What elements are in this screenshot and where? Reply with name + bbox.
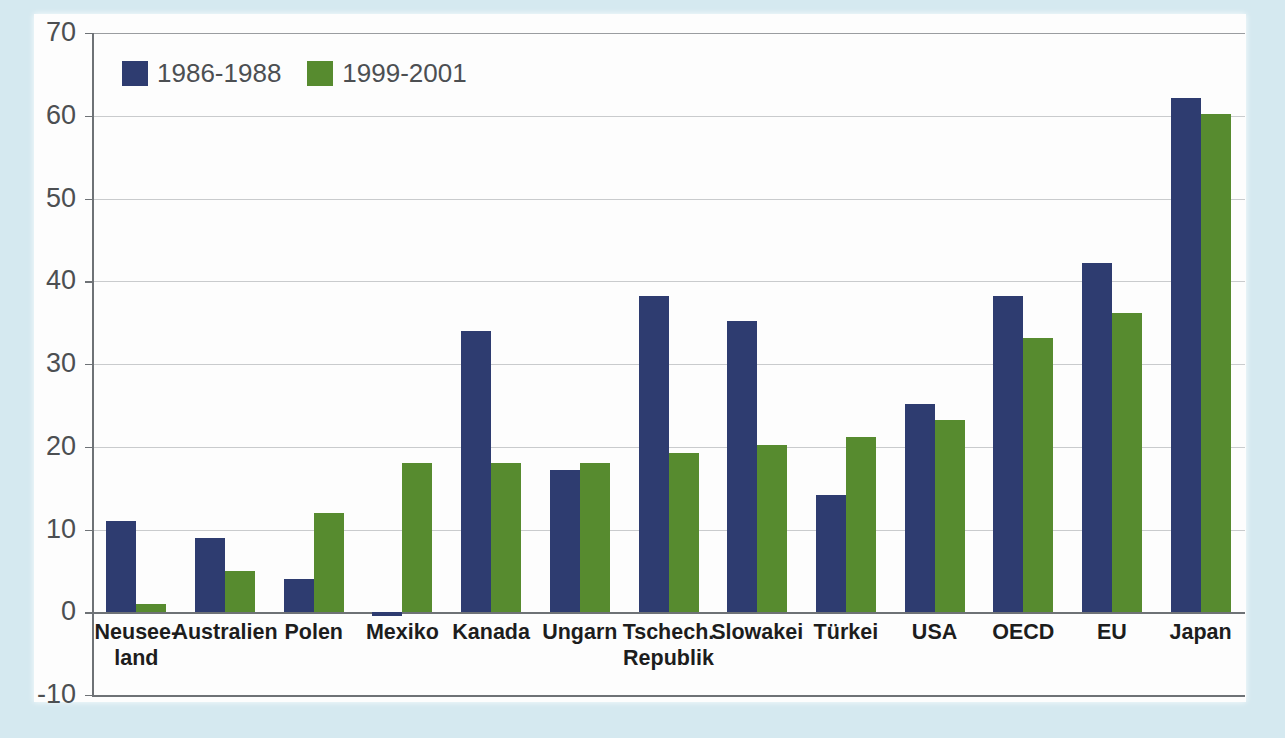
y-tick-mark <box>85 116 92 117</box>
y-tick-label: 20 <box>6 433 76 460</box>
bar <box>727 321 757 612</box>
y-tick-mark <box>85 364 92 365</box>
legend-item-1986-1988: 1986-1988 <box>122 60 281 86</box>
legend-swatch-icon <box>122 61 148 86</box>
bar <box>225 571 255 612</box>
bar <box>1023 338 1053 613</box>
chart-legend: 1986-1988 1999-2001 <box>122 60 467 86</box>
y-tick-label: 70 <box>6 19 76 46</box>
category-label-line: land <box>83 646 190 671</box>
legend-item-1999-2001: 1999-2001 <box>307 60 466 86</box>
bar <box>639 296 669 612</box>
bar <box>993 296 1023 612</box>
bar <box>757 445 787 612</box>
y-tick-mark <box>85 530 92 531</box>
y-tick-label: 40 <box>6 267 76 294</box>
bar <box>669 453 699 612</box>
category-label-line: Republik <box>615 646 722 671</box>
legend-swatch-icon <box>307 61 333 86</box>
x-axis-category-label: Japan <box>1147 620 1254 645</box>
bar <box>580 463 610 612</box>
bar <box>136 604 166 612</box>
bar <box>935 420 965 612</box>
legend-label: 1986-1988 <box>157 60 281 86</box>
bar <box>1201 114 1231 612</box>
legend-label: 1999-2001 <box>342 60 466 86</box>
bar <box>195 538 225 612</box>
y-tick-mark <box>85 612 92 613</box>
bar <box>314 513 344 612</box>
bar <box>106 521 136 612</box>
bar <box>816 495 846 613</box>
gridline <box>92 116 1245 117</box>
bar <box>550 470 580 612</box>
category-label-line: Japan <box>1147 620 1254 645</box>
y-axis-line <box>92 33 94 695</box>
gridline <box>92 199 1245 200</box>
bar <box>905 404 935 613</box>
gridline <box>92 612 1245 614</box>
y-tick-label: -10 <box>6 681 76 708</box>
bar <box>491 463 521 612</box>
y-tick-mark <box>85 33 92 34</box>
y-tick-label: 60 <box>6 102 76 129</box>
y-tick-mark <box>85 199 92 200</box>
bar <box>461 331 491 612</box>
gridline <box>92 33 1245 34</box>
gridline <box>92 447 1245 448</box>
bar <box>284 579 314 612</box>
y-tick-mark <box>85 695 92 696</box>
y-tick-label: 10 <box>6 516 76 543</box>
chart-figure: 1986-1988 1999-2001 706050403020100-10Ne… <box>0 0 1285 738</box>
y-tick-mark <box>85 281 92 282</box>
y-tick-label: 30 <box>6 350 76 377</box>
y-tick-label: 50 <box>6 185 76 212</box>
bar <box>372 612 402 616</box>
y-tick-mark <box>85 447 92 448</box>
gridline <box>92 695 1245 697</box>
bar <box>846 437 876 612</box>
bar <box>1112 313 1142 613</box>
bar <box>1082 263 1112 612</box>
y-tick-label: 0 <box>6 598 76 625</box>
gridline <box>92 281 1245 282</box>
bar <box>402 463 432 612</box>
plot-area <box>92 33 1245 695</box>
bar <box>1171 98 1201 613</box>
gridline <box>92 364 1245 365</box>
